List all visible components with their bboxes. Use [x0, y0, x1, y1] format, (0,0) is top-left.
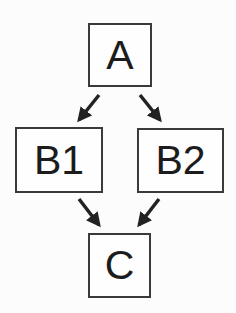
edge-b1-c: [79, 199, 99, 225]
node-c-label: C: [105, 245, 135, 286]
node-b2: B2: [137, 128, 224, 193]
node-b1: B1: [15, 127, 103, 193]
node-b1-label: B1: [34, 140, 84, 181]
node-a-label: A: [106, 35, 133, 76]
edge-a-b1: [79, 95, 99, 120]
edge-a-b2: [140, 95, 160, 120]
node-b2-label: B2: [155, 140, 205, 181]
node-a: A: [88, 23, 152, 87]
edge-b2-c: [139, 199, 159, 225]
node-c: C: [88, 233, 151, 298]
